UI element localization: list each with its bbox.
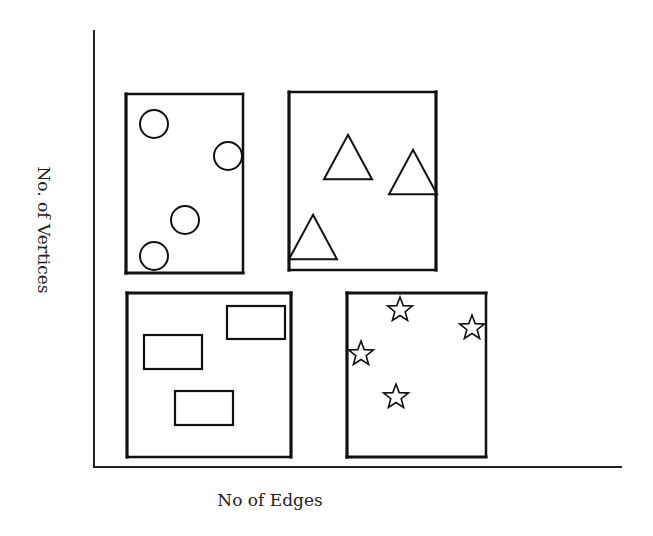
circle-icon <box>214 142 242 170</box>
triangle-icon <box>389 150 437 194</box>
panel-bottom-right <box>347 293 486 457</box>
x-axis-label: No of Edges <box>217 490 322 510</box>
star-icon <box>388 297 413 321</box>
triangle-icon <box>324 135 372 179</box>
circle-icon <box>171 206 199 234</box>
rectangle-icon <box>227 306 285 339</box>
y-axis-label: No. of Vertices <box>34 166 54 293</box>
panel-top-left <box>126 94 243 273</box>
star-icon <box>460 315 485 339</box>
rectangle-icon <box>175 391 233 425</box>
triangle-icon <box>289 215 337 259</box>
rectangle-icon <box>144 335 202 369</box>
panel-top-right <box>289 92 437 270</box>
circle-icon <box>140 242 168 270</box>
panel-bottom-left <box>127 293 291 457</box>
circle-icon <box>140 110 168 138</box>
diagram-canvas <box>0 0 653 536</box>
star-icon <box>384 384 409 408</box>
panels-group <box>126 92 486 457</box>
star-icon <box>349 341 374 365</box>
